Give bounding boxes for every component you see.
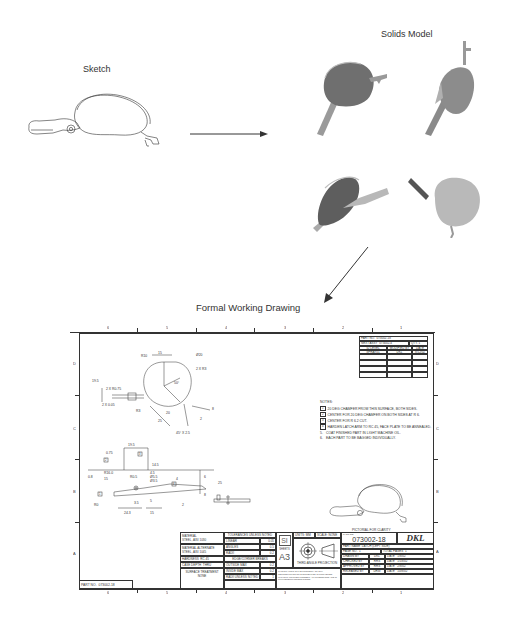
dim-label: R0 [94,503,98,507]
col-label-bottom: 6 [107,591,109,595]
title-empty [341,574,434,589]
material-cell: MATERIALSTEEL, AISI 1030 [180,532,224,544]
top-ruler [70,332,435,333]
col-label-bottom: 3 [284,591,286,595]
col-label-top: 2 [342,326,344,330]
dim-label: 19.5 [128,443,135,447]
disclaimer-cell: THIS DRAWING IS THE PROPERTY OF DKL. REP… [276,568,341,589]
row-tick [433,459,438,460]
col-label-bottom: 5 [166,591,168,595]
dim-label: Ø20 [196,353,203,357]
col-label-bottom: 4 [225,591,227,595]
main-part-no-cell: PART NO. 073002-18 [341,532,397,544]
si-badge: SI [279,535,291,546]
row-tick [75,522,80,523]
ruler-tick [254,589,255,593]
solid-view-4 [408,178,480,238]
dim-label: 19.5 [92,379,99,383]
dim-label: Ø3.5 [150,479,157,483]
solids-model-views [295,38,495,238]
arrow-to-solids-icon [188,128,270,140]
dim-label: 15 [158,351,162,355]
pictorial-view [328,482,408,526]
note-flag: 2 [105,458,107,462]
row-tick [433,522,438,523]
side-view-drawing: 19.5 0.75 14.5 R16.0 0.8 15 4.5 R0.5 Ø5.… [84,434,234,524]
dim-label: 2 X R3 [196,367,206,371]
dim-label: 2 X R0.75 [106,387,121,391]
dim-label: 24.3 [124,511,131,515]
top-view-drawing: R10 15 Ø20 2 X R3 19.5 2 X R0.75 2 X 0.0… [84,342,224,442]
dim-label: 3.5 [134,501,139,505]
dim-label: 25 [218,481,222,485]
ruler-tick [313,328,314,333]
end-view-drawing [212,492,252,508]
dim-label: R16.0 [104,471,113,475]
ruler-tick [196,328,197,333]
dim-label: 0.8 [88,475,93,479]
projection-label: THIRD ANGLE PROJECTION [294,562,340,566]
dim-label: 0.75 [106,451,113,455]
solid-view-1 [317,63,387,136]
sketch-title: Sketch [83,64,111,74]
col-label-top: 6 [107,326,109,330]
row-label-left: A [73,552,76,556]
note-flag: 3 [139,452,141,456]
part-no-tab: PART NO. 073002-18 [79,580,133,589]
ruler-tick [254,328,255,333]
col-label-top: 3 [284,326,286,330]
dim-label: R3 [136,409,140,413]
revision-block: PART NO. 073002-18 NEXT ASSY 073002-4 QT… [359,336,428,378]
row-tick [433,395,438,396]
note-item: 6.EACH PART TO BE BAGGED INDIVIDUALLY. [320,436,431,442]
dim-label: 2 [200,417,202,421]
rev-cell [412,372,428,378]
col-label-bottom: 2 [342,591,344,595]
notes-block: NOTES: 120 DEG CHAMFER FROM THIS SURFACE… [320,400,431,442]
solid-view-2 [425,41,474,136]
dim-label: R0.5 [130,475,137,479]
dim-label: 14.5 [152,463,159,467]
main-part-no: 073002-18 [343,536,395,544]
row-label-left: D [73,362,76,366]
dim-label: 25 [158,419,162,423]
row-label-right: D [436,362,439,366]
dim-label: 5 [150,499,152,503]
ruler-tick [372,328,373,333]
third-angle-projection-icon [296,541,340,561]
sketch-illustration [25,90,165,160]
ruler-tick [372,589,373,593]
alt-material-cell: MATERIAL ALTERNATESTEEL, AISI 1045 [180,544,224,556]
formal-drawing-title: Formal Working Drawing [196,302,300,313]
solid-view-3 [313,177,389,232]
si-sheet-cell: SI SHEETS A3 [276,532,293,568]
surface-cell: SURFACE TREATMENTNONE [180,568,224,589]
row-tick [75,395,80,396]
dim-label: 2 X 0.05 [102,403,115,407]
col-label-top: 1 [400,326,402,330]
dim-label: 8 [212,407,214,411]
ruler-tick [137,589,138,593]
note-flag: 1 [99,492,101,496]
rev-cell [387,372,412,378]
row-label-left: B [73,490,76,494]
note-item: 120 DEG CHAMFER FROM THIS SURFACE, BOTH … [320,406,431,412]
drawing-sheet: 6 5 4 3 2 1 D C B A D C B A PART NO. 073… [70,322,445,597]
dim-label: 15 [104,477,108,481]
row-label-right: B [436,490,439,494]
sheet-size: A3 [278,552,291,562]
dim-label: 15 [150,511,154,515]
ruler-tick [196,589,197,593]
projection-cell: THIRD ANGLE PROJECTION [293,538,341,568]
row-label-left: C [73,427,76,431]
col-label-top: 4 [225,326,227,330]
dim-label: 20 [166,411,170,415]
ruler-tick [313,589,314,593]
dim-label: 2 [182,503,184,507]
dim-label: R10 [141,354,147,358]
dim-label: 4 [176,477,178,481]
ruler-tick [137,328,138,333]
dim-label: 6 [204,475,206,479]
dim-label: 8 [204,493,206,497]
rev-cell [359,372,387,378]
